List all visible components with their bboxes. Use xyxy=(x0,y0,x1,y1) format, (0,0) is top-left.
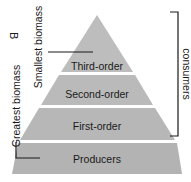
consumers-label: consumers xyxy=(181,48,191,99)
tier-label-second-order: Second-order xyxy=(65,88,129,100)
tier-label-producers: Producers xyxy=(73,153,121,165)
panel-letter: B xyxy=(8,32,20,39)
trophic-pyramid-diagram: Third-order Second-order First-order Pro… xyxy=(0,0,191,182)
consumers-bracket xyxy=(170,12,178,136)
tier-label-third-order: Third-order xyxy=(71,60,123,72)
greatest-biomass-label: Greatest biomass xyxy=(10,65,22,147)
smallest-biomass-label: Smallest biomass xyxy=(32,6,44,88)
tier-label-first-order: First-order xyxy=(73,120,122,132)
